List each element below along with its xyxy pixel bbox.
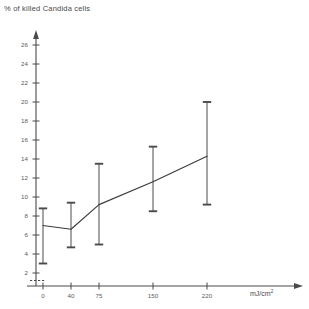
x-axis-unit-label: mJ/cm2 bbox=[250, 289, 273, 297]
x-tick-label-40: 40 bbox=[57, 292, 85, 299]
y-tick-label-8: 8 bbox=[8, 212, 28, 219]
error-bar-0 bbox=[39, 208, 47, 263]
x-tick-label-0: 0 bbox=[29, 292, 57, 299]
chart-canvas bbox=[0, 0, 309, 309]
y-tick-label-6: 6 bbox=[8, 231, 28, 238]
y-tick-label-20: 20 bbox=[8, 98, 28, 105]
error-bar-40 bbox=[67, 203, 75, 248]
unit-exponent: 2 bbox=[271, 289, 274, 294]
y-axis bbox=[33, 30, 40, 286]
y-tick-label-2: 2 bbox=[8, 269, 28, 276]
y-tick-label-14: 14 bbox=[8, 155, 28, 162]
y-tick-label-4: 4 bbox=[8, 250, 28, 257]
y-tick-label-16: 16 bbox=[8, 136, 28, 143]
error-bar-220 bbox=[203, 102, 211, 205]
y-tick-label-24: 24 bbox=[8, 60, 28, 67]
unit-denominator: cm bbox=[261, 290, 270, 297]
y-tick-label-26: 26 bbox=[8, 41, 28, 48]
error-bar-150 bbox=[149, 147, 157, 212]
x-tick-label-220: 220 bbox=[193, 292, 221, 299]
y-tick-label-10: 10 bbox=[8, 193, 28, 200]
x-tick-label-150: 150 bbox=[139, 292, 167, 299]
y-tick-label-12: 12 bbox=[8, 174, 28, 181]
error-bars bbox=[39, 102, 211, 264]
y-tick-label-22: 22 bbox=[8, 79, 28, 86]
data-line bbox=[43, 156, 207, 229]
unit-numerator: mJ bbox=[250, 290, 259, 297]
chart-container: % of killed Candida cells 24681012141618… bbox=[0, 0, 309, 309]
x-tick-label-75: 75 bbox=[85, 292, 113, 299]
y-tick-label-18: 18 bbox=[8, 117, 28, 124]
